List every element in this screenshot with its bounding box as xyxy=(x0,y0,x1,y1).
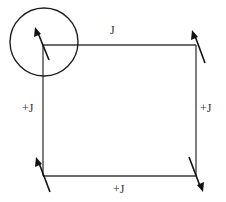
highlight-circle xyxy=(10,8,78,76)
frustrated-plaquette-diagram: J +J +J +J xyxy=(0,0,226,202)
arrowhead-icon xyxy=(35,157,42,167)
plaquette-edges xyxy=(43,45,196,176)
label-edge-bottom: +J xyxy=(113,182,125,196)
spin-top-right xyxy=(191,30,205,63)
arrowhead-icon xyxy=(34,27,41,37)
spin-arrow-up-icon xyxy=(39,163,50,192)
spin-arrow-down-icon xyxy=(189,157,200,186)
label-edge-left: +J xyxy=(22,101,34,115)
arrowhead-icon xyxy=(197,182,204,192)
spin-top-left xyxy=(34,27,49,60)
label-edge-top: J xyxy=(110,23,115,37)
arrowhead-icon xyxy=(191,30,198,40)
label-edge-right: +J xyxy=(200,101,212,115)
